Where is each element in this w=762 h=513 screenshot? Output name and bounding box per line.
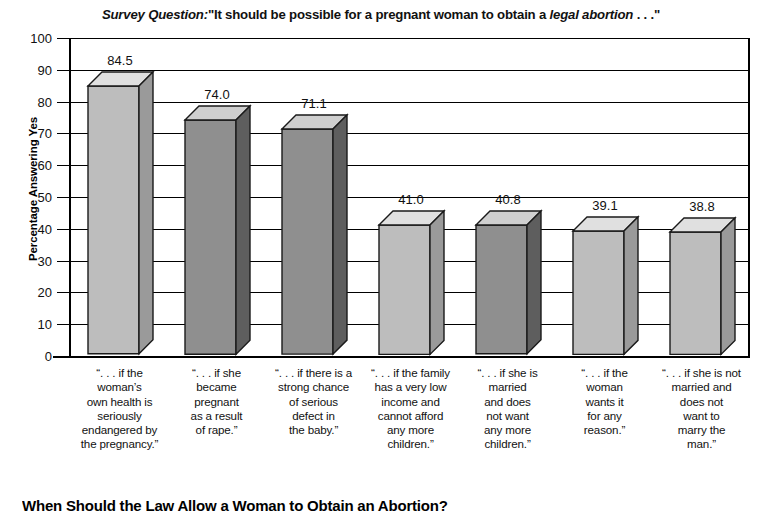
x-label-line: own health is [64, 395, 175, 409]
x-label-line: married and [646, 380, 757, 394]
chart-title-quote-open: "It should be possible for a pregnant wo… [208, 7, 550, 22]
x-label-line: became [161, 380, 272, 394]
x-label-line: has a very low [355, 380, 466, 394]
chart-title-quote-close: . . ." [633, 7, 660, 22]
y-tick-mark [57, 229, 69, 230]
x-label-line: pregnant [161, 395, 272, 409]
figure-caption: When Should the Law Allow a Woman to Obt… [22, 497, 742, 513]
x-label-line: children.” [355, 437, 466, 451]
bar-side-face [430, 211, 444, 354]
x-label-line: of rape.” [161, 423, 272, 437]
x-axis-label: “. . . if she is notmarried anddoes notw… [646, 366, 757, 452]
x-label-line: the pregnancy.” [64, 437, 175, 451]
x-label-line: “. . . if there is a [258, 366, 369, 380]
chart-title-label: Survey Question: [102, 7, 208, 22]
x-label-line: any more [452, 423, 563, 437]
chart-title-emphasis: legal abortion [550, 7, 634, 22]
x-label-line: marry the [646, 423, 757, 437]
y-tick-mark [57, 292, 69, 293]
y-tick-label: 100 [12, 31, 52, 46]
y-tick-mark [57, 38, 69, 39]
x-label-line: “. . . if the [64, 366, 175, 380]
bar-3d-shape [378, 210, 446, 356]
x-label-line: as a result [161, 409, 272, 423]
bar-front-face [670, 232, 721, 354]
x-label-line: woman’s [64, 380, 175, 394]
x-label-line: the baby.” [258, 423, 369, 437]
bar[interactable] [669, 219, 721, 356]
x-label-line: woman [549, 380, 660, 394]
gridline [71, 102, 750, 103]
x-label-line: “. . . if she [161, 366, 272, 380]
bar-value-label: 71.1 [269, 96, 359, 111]
gridline [71, 165, 750, 166]
x-label-line: not want [452, 409, 563, 423]
bar[interactable] [572, 218, 624, 356]
x-label-line: of serious [258, 395, 369, 409]
y-tick-mark [57, 133, 69, 134]
bar-front-face [379, 225, 430, 354]
bar[interactable] [378, 212, 430, 356]
bar-3d-shape [184, 105, 252, 356]
bar-side-face [333, 115, 347, 354]
x-axis-label: “. . . if thewoman’sown health isserious… [64, 366, 175, 452]
bar[interactable] [475, 212, 527, 356]
x-label-line: strong chance [258, 380, 369, 394]
y-tick-label: 50 [12, 190, 52, 205]
bar-side-face [139, 72, 153, 354]
gridline [71, 38, 750, 39]
x-label-line: man.” [646, 437, 757, 451]
bar-value-label: 38.8 [657, 199, 747, 214]
gridline [71, 70, 750, 71]
x-label-line: “. . . if she is [452, 366, 563, 380]
y-tick-label: 20 [12, 285, 52, 300]
bar[interactable] [87, 73, 139, 356]
x-label-line: want to [646, 409, 757, 423]
x-label-line: “. . . if she is not [646, 366, 757, 380]
y-tick-mark [57, 70, 69, 71]
y-tick-label: 0 [12, 349, 52, 364]
x-axis-label: “. . . if the familyhas a very lowincome… [355, 366, 466, 452]
x-axis-label: “. . . if shebecamepregnantas a resultof… [161, 366, 272, 437]
x-axis-labels: “. . . if thewoman’sown health isserious… [71, 366, 750, 491]
y-tick-mark [57, 261, 69, 262]
bar-front-face [282, 129, 333, 354]
bar-value-label: 84.5 [75, 53, 165, 68]
bar-front-face [573, 231, 624, 354]
bar-3d-shape [669, 217, 737, 356]
y-tick-label: 80 [12, 94, 52, 109]
bar[interactable] [281, 116, 333, 356]
x-label-line: for any [549, 409, 660, 423]
chart-figure: Survey Question:"It should be possible f… [0, 0, 762, 513]
y-tick-mark [57, 102, 69, 103]
x-axis-label: “. . . if thewomanwants itfor anyreason.… [549, 366, 660, 437]
y-tick-mark [57, 324, 69, 325]
bar-front-face [88, 86, 139, 354]
x-label-line: any more [355, 423, 466, 437]
x-label-line: seriously [64, 409, 175, 423]
x-axis-label: “. . . if she ismarriedand doesnot wanta… [452, 366, 563, 452]
bar[interactable] [184, 107, 236, 356]
y-tick-label: 10 [12, 317, 52, 332]
gridline [71, 133, 750, 134]
plot-area: 84.574.071.141.040.839.138.8 [71, 38, 750, 356]
y-tick-mark [57, 197, 69, 198]
bar-front-face [185, 120, 236, 354]
bar-value-label: 74.0 [172, 87, 262, 102]
x-label-line: does not [646, 395, 757, 409]
x-label-line: “. . . if the [549, 366, 660, 380]
y-tick-label: 60 [12, 158, 52, 173]
bar-value-label: 40.8 [463, 192, 553, 207]
y-tick-label: 30 [12, 253, 52, 268]
bar-side-face [624, 217, 638, 354]
x-label-line: “. . . if the family [355, 366, 466, 380]
axis-baseline [53, 356, 750, 358]
x-label-line: reason.” [549, 423, 660, 437]
bar-3d-shape [87, 71, 155, 356]
bar-front-face [476, 225, 527, 354]
chart-title: Survey Question:"It should be possible f… [0, 7, 762, 22]
x-label-line: cannot afford [355, 409, 466, 423]
bar-side-face [721, 218, 735, 354]
x-label-line: defect in [258, 409, 369, 423]
x-axis-label: “. . . if there is astrong chanceof seri… [258, 366, 369, 437]
